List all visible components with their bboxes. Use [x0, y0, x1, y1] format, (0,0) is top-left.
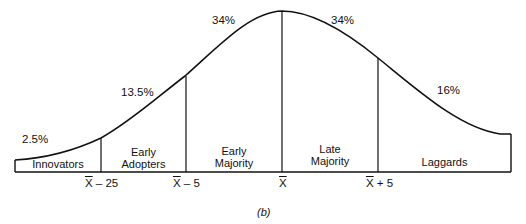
bell-curve-diagram [0, 0, 526, 224]
tick-mean-plus-5: X + 5 [366, 177, 393, 189]
segment-early-majority: Early Majority [186, 145, 282, 169]
segment-late-majority: Late Majority [282, 143, 378, 167]
pct-early-majority: 34% [212, 14, 235, 26]
segment-innovators: Innovators [15, 158, 101, 170]
figure-caption: (b) [257, 206, 270, 218]
tick-mean: X [279, 177, 287, 189]
pct-laggards: 16% [437, 84, 460, 96]
tick-mean-minus-25: X – 25 [85, 177, 118, 189]
pct-innovators: 2.5% [22, 133, 48, 145]
segment-early-adopters: Early Adopters [101, 146, 186, 170]
segment-laggards: Laggards [378, 156, 511, 168]
pct-early-adopters: 13.5% [121, 86, 154, 98]
pct-late-majority: 34% [331, 14, 354, 26]
tick-mean-minus-5: X – 5 [173, 177, 200, 189]
